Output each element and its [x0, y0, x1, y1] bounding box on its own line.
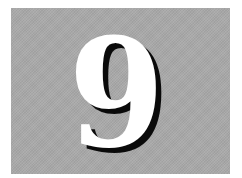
number-digit: 9	[16, 10, 217, 176]
number-panel: 9	[11, 8, 230, 174]
